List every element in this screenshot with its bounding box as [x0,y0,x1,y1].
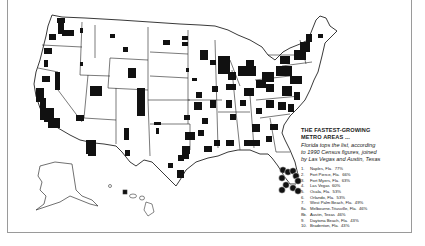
legend-title-line2: METRO AREAS ... [301,134,413,141]
growth-value: 63% [342,178,350,184]
list-item: 10.Bradenton, Fla. 43% [301,223,413,229]
hawaii-islands [109,185,155,217]
metro-ranking-list: 1.Naples, Fla. 77% 2.Fort Pierce, Fla. 6… [301,166,413,229]
legend-subtitle-line2: to 1990 Census figures, joined [301,149,413,156]
growth-value: 43% [341,223,349,229]
growth-value: 46% [359,206,367,212]
legend-subtitle-line3: by Las Vegas and Austin, Texas [301,156,413,163]
alaska-outline [36,162,98,210]
legend: THE FASTEST-GROWING METRO AREAS ... Flor… [301,127,413,229]
legend-subtitle-line1: Florida tops the list, according [301,142,413,149]
metro-name: Bradenton, Fla. [310,223,339,229]
legend-title-line1: THE FASTEST-GROWING [301,127,413,134]
us-outline [34,15,337,186]
rank: 10. [301,223,310,229]
growth-value: 43% [350,218,358,224]
